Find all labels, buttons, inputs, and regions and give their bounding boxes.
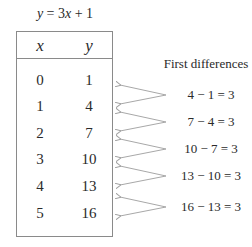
difference-item: 10 − 7 = 3 (170, 141, 252, 157)
difference-item: 7 − 4 = 3 (170, 114, 252, 130)
difference-item: 4 − 1 = 3 (170, 87, 252, 103)
difference-item: 13 − 10 = 3 (170, 168, 252, 184)
difference-item: 16 − 13 = 3 (170, 199, 252, 215)
